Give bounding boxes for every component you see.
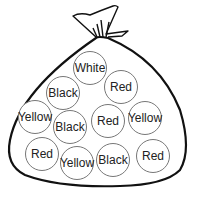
ball-label: Black — [98, 153, 128, 167]
bag-diagram: WhiteBlackRedYellowBlackRedYellowRedYell… — [0, 0, 200, 201]
ball-yellow: Yellow — [60, 147, 95, 180]
ball-black: Black — [54, 111, 87, 144]
ball-red: Red — [105, 71, 138, 104]
ball-label: Red — [110, 80, 132, 94]
ball-yellow: Yellow — [128, 102, 163, 135]
ball-label: Black — [48, 86, 78, 100]
ball-label: Red — [31, 147, 53, 161]
ball-black: Black — [47, 77, 80, 110]
ball-yellow: Yellow — [18, 101, 53, 134]
ball-label: Black — [55, 120, 85, 134]
ball-label: Yellow — [128, 111, 163, 125]
ball-black: Black — [97, 144, 130, 177]
balls-group: WhiteBlackRedYellowBlackRedYellowRedYell… — [18, 52, 170, 180]
ball-red: Red — [137, 140, 170, 173]
bag-tie-strands — [93, 20, 109, 37]
ball-label: Yellow — [18, 110, 53, 124]
ball-label: White — [75, 61, 106, 75]
ball-label: Yellow — [60, 156, 95, 170]
ball-label: Red — [97, 114, 119, 128]
ball-label: Red — [142, 149, 164, 163]
ball-white: White — [74, 52, 107, 85]
ball-red: Red — [26, 138, 59, 171]
ball-red: Red — [92, 105, 125, 138]
